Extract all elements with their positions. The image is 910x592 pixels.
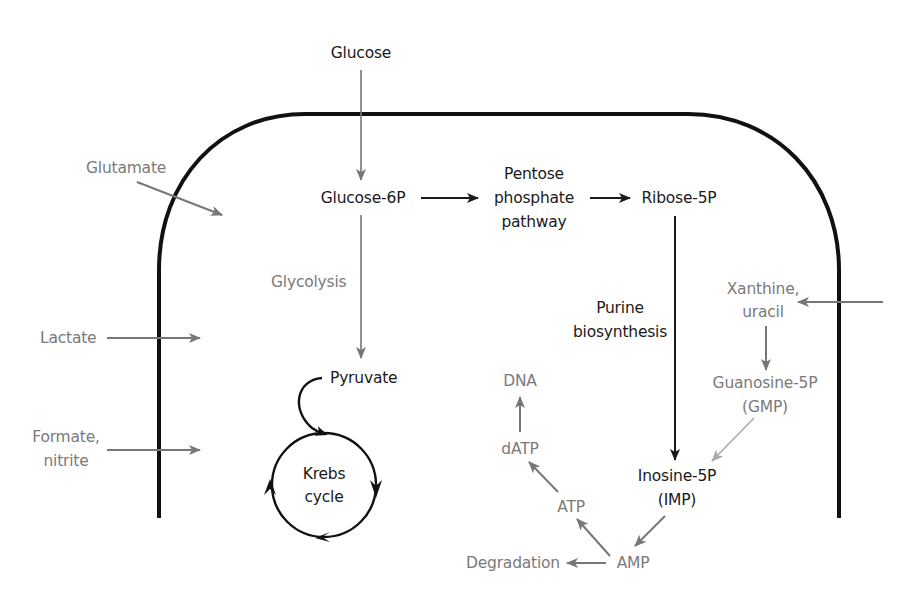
- arrow-pyruvate-to-krebs: [299, 378, 322, 433]
- label-pentose-1: Pentose: [484, 163, 584, 185]
- label-glycolysis: Glycolysis: [271, 271, 346, 293]
- label-dna: DNA: [495, 370, 545, 392]
- label-purine: Purine: [570, 297, 670, 319]
- arrow-gmp-to-imp: [712, 418, 754, 461]
- arrow-atp-to-datp: [529, 462, 558, 492]
- arrow-imp-to-amp: [635, 516, 665, 546]
- label-biosynthesis: biosynthesis: [565, 321, 675, 343]
- label-xanthine: Xanthine,: [713, 278, 813, 300]
- label-gmp: (GMP): [720, 396, 810, 418]
- krebs-cycle-circle: [272, 433, 376, 537]
- label-cycle: cycle: [284, 486, 364, 508]
- label-amp: AMP: [608, 552, 658, 574]
- label-datp: dATP: [492, 438, 548, 460]
- label-guanosine-5p: Guanosine-5P: [700, 372, 830, 394]
- label-uracil: uracil: [713, 301, 813, 323]
- label-pyruvate: Pyruvate: [330, 367, 397, 389]
- label-glucose-6p: Glucose-6P: [313, 187, 413, 209]
- label-formate: Formate,: [26, 426, 106, 448]
- metabolic-diagram: Glucose Glucose-6P Pentose phosphate pat…: [0, 0, 910, 592]
- label-lactate: Lactate: [40, 327, 96, 349]
- label-nitrite: nitrite: [26, 450, 106, 472]
- arrow-amp-to-atp: [577, 519, 610, 556]
- label-degradation: Degradation: [440, 552, 560, 574]
- krebs-arrowhead-left: [264, 479, 276, 495]
- label-pentose-2: phosphate: [484, 187, 584, 209]
- label-imp: (IMP): [632, 489, 722, 511]
- label-glucose: Glucose: [329, 42, 393, 64]
- label-ribose-5p: Ribose-5P: [636, 187, 722, 209]
- label-inosine-5p: Inosine-5P: [622, 465, 732, 487]
- label-pentose-3: pathway: [484, 211, 584, 233]
- label-glutamate: Glutamate: [86, 157, 166, 179]
- label-atp: ATP: [546, 496, 596, 518]
- label-krebs: Krebs: [284, 463, 364, 485]
